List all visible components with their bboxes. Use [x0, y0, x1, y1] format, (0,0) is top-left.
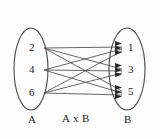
node-label-a-0: 2: [29, 42, 35, 53]
arrowhead-to-1-a: [115, 41, 122, 46]
set-b-ellipse: [109, 28, 145, 110]
arrowhead-to-1-c: [115, 50, 122, 55]
node-label-b-1: 3: [128, 64, 134, 75]
arrowhead-to-3-a: [115, 63, 122, 68]
set-a-label: A: [28, 114, 36, 125]
relation-label: A x B: [62, 113, 90, 124]
edge-4-3: [44, 70, 122, 71]
node-label-a-2: 6: [29, 87, 35, 98]
set-b-label: B: [124, 114, 131, 125]
arrowhead-to-3-c: [115, 72, 122, 77]
edge-2-1: [44, 47, 122, 48]
edge-6-5: [44, 93, 122, 95]
node-label-b-0: 1: [128, 42, 134, 53]
edge-4-1: [44, 49, 122, 70]
node-label-a-1: 4: [29, 64, 35, 75]
arrow-diagram-figure: 2 4 6 1 3 5 A B A x B: [0, 0, 160, 139]
node-label-b-2: 5: [128, 86, 134, 97]
